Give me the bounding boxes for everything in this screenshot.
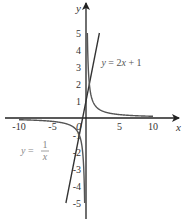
line-equation-label: y = 2x + 1	[100, 57, 141, 68]
y-tick-label: 3	[76, 62, 81, 73]
x-tick-label: -5	[48, 121, 56, 132]
y-tick-label: 1	[76, 96, 81, 107]
x-axis-label: x	[175, 121, 181, 133]
x-tick-label: 5	[117, 121, 122, 132]
y-tick-label: 4	[76, 45, 81, 56]
y-tick-label: 5	[76, 28, 81, 39]
y-tick-label: -5	[73, 198, 81, 209]
svg-text:1: 1	[43, 139, 48, 150]
svg-text:y: y	[20, 145, 26, 156]
hyperbola-equation-label: y = 1x	[20, 139, 49, 162]
function-graph: x y 0 -10-551012345-1-2-3-4-5 y = 2x + 1…	[0, 0, 185, 223]
x-tick-label: 10	[148, 121, 158, 132]
y-tick-label: 2	[76, 79, 81, 90]
y-tick-label: -4	[73, 181, 81, 192]
y-axis-label: y	[75, 2, 81, 14]
x-tick-label: -10	[12, 121, 25, 132]
svg-text:x: x	[42, 151, 48, 162]
svg-text:=: =	[28, 145, 34, 156]
